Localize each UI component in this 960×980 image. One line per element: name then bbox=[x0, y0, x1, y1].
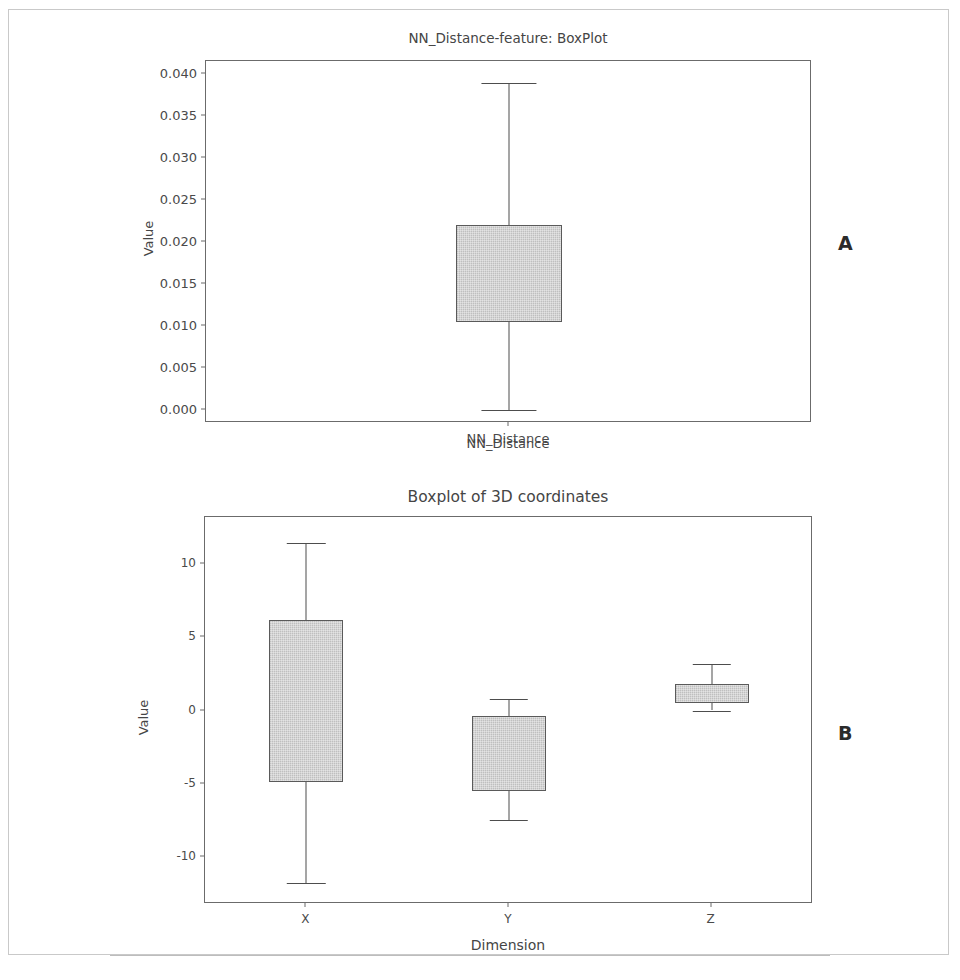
x-axis-label-b: Dimension bbox=[204, 937, 812, 953]
y-tick-label: 10 bbox=[142, 556, 196, 570]
x-tick-mark bbox=[305, 903, 306, 907]
box-iqr bbox=[675, 684, 749, 703]
y-tick-label: 5 bbox=[142, 629, 196, 643]
y-tick-label: 0.020 bbox=[143, 234, 197, 249]
whisker-upper bbox=[509, 83, 510, 225]
x-tick-mark bbox=[508, 903, 509, 907]
y-tick-label: 0.035 bbox=[143, 107, 197, 122]
x-tick-label: X bbox=[301, 912, 309, 926]
figure-panel-a: NN_Distance-feature: BoxPlot Value 0.000… bbox=[0, 0, 960, 470]
y-tick-label: 0 bbox=[142, 703, 196, 717]
x-axis-label-a: NN_Distance bbox=[205, 436, 811, 451]
whisker-upper bbox=[711, 664, 712, 685]
panel-label-a: A bbox=[838, 232, 853, 254]
whisker-cap-lower bbox=[692, 711, 730, 712]
boxplot-nn_distance bbox=[206, 61, 810, 421]
x-tick-mark bbox=[710, 903, 711, 907]
plot-area-a bbox=[205, 60, 811, 422]
plot-area-b bbox=[204, 516, 812, 903]
y-tick-label: -10 bbox=[142, 849, 196, 863]
figure-panel-b: Boxplot of 3D coordinates Value -10-5051… bbox=[0, 470, 960, 960]
whisker-cap-lower bbox=[481, 410, 536, 411]
x-tick-label: Y bbox=[504, 912, 511, 926]
x-tick-label: Z bbox=[707, 912, 715, 926]
whisker-cap-upper bbox=[481, 83, 536, 84]
y-tick-label: 0.000 bbox=[143, 402, 197, 417]
panel-label-b: B bbox=[838, 722, 852, 744]
x-tick-mark bbox=[508, 422, 509, 426]
y-tick-label: 0.025 bbox=[143, 191, 197, 206]
y-tick-label: 0.010 bbox=[143, 318, 197, 333]
whisker-lower bbox=[711, 703, 712, 710]
y-tick-label: 0.015 bbox=[143, 276, 197, 291]
boxplot-z bbox=[205, 517, 811, 902]
y-axis-label-b: Value bbox=[136, 658, 151, 778]
box-iqr bbox=[456, 225, 562, 322]
whisker-cap-upper bbox=[692, 664, 730, 665]
y-tick-label: 0.005 bbox=[143, 360, 197, 375]
y-tick-label: 0.040 bbox=[143, 65, 197, 80]
chart-title-a: NN_Distance-feature: BoxPlot bbox=[205, 30, 811, 46]
whisker-lower bbox=[509, 322, 510, 410]
chart-title-b: Boxplot of 3D coordinates bbox=[204, 488, 812, 506]
y-tick-label: -5 bbox=[142, 776, 196, 790]
y-tick-label: 0.030 bbox=[143, 149, 197, 164]
